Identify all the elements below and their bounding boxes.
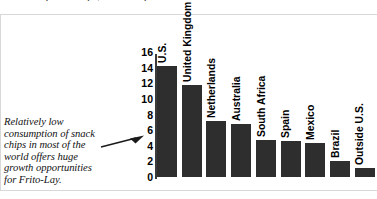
bar-group[interactable]: Spain <box>281 52 301 177</box>
y-axis-tick-label: 12 <box>137 78 153 88</box>
y-axis-tick-label: 8 <box>137 110 153 120</box>
bar[interactable] <box>231 124 251 177</box>
bar-category-label: South Africa <box>255 75 266 136</box>
y-axis: 0246810121416 <box>133 52 153 184</box>
y-axis-tick-label: 16 <box>137 47 153 57</box>
bar-group[interactable]: South Africa <box>256 52 276 177</box>
bar-group[interactable]: Netherlands <box>206 52 226 177</box>
chart-annotation-caption: Relatively low consumption of snack chip… <box>4 116 124 186</box>
bar[interactable] <box>305 143 325 177</box>
bar[interactable] <box>157 66 177 177</box>
y-axis-tick-label: 14 <box>137 63 153 73</box>
bar-category-label: Mexico <box>305 105 316 140</box>
bar-group[interactable]: Mexico <box>305 52 325 177</box>
bar[interactable] <box>182 85 202 177</box>
bar-category-label: Spain <box>280 110 291 138</box>
figure-frame-bottom <box>0 190 377 191</box>
y-axis-tick-label: 6 <box>137 125 153 135</box>
bar-category-label: U.S. <box>156 43 167 63</box>
caption-line: chips in most of the <box>4 139 124 151</box>
bar-category-label: United Kingdom <box>181 2 192 82</box>
bar-category-label: Netherlands <box>206 58 217 118</box>
y-axis-tick-label: 10 <box>137 94 153 104</box>
caption-line: for Frito-Lay. <box>4 174 124 186</box>
bar-category-label: Outside U.S. <box>354 103 365 165</box>
caption-line: growth opportunities <box>4 162 124 174</box>
bar-group[interactable]: Outside U.S. <box>355 52 375 177</box>
bar[interactable] <box>281 141 301 177</box>
caption-line: consumption of snack <box>4 128 124 140</box>
bar-group[interactable]: Australia <box>231 52 251 177</box>
plot-area: U.S.United KingdomNetherlandsAustraliaSo… <box>157 52 373 177</box>
bar[interactable] <box>256 140 276 178</box>
bar-chart: 0246810121416 U.S.United KingdomNetherla… <box>133 52 373 184</box>
y-axis-tick-label: 2 <box>137 156 153 166</box>
bar[interactable] <box>206 121 226 177</box>
bar-group[interactable]: U.S. <box>157 52 177 177</box>
bar-group[interactable]: Brazil <box>330 52 350 177</box>
caption-line: Relatively low <box>4 116 124 128</box>
caption-line: world offers huge <box>4 151 124 163</box>
bar[interactable] <box>330 161 350 177</box>
bar-group[interactable]: United Kingdom <box>182 52 202 177</box>
y-axis-tick-label: 4 <box>137 141 153 151</box>
bar-category-label: Brazil <box>329 130 340 158</box>
bar-category-label: Australia <box>230 76 241 120</box>
bar[interactable] <box>355 168 375 177</box>
figure-frame-left <box>0 14 1 190</box>
y-axis-tick-label: 0 <box>137 172 153 182</box>
